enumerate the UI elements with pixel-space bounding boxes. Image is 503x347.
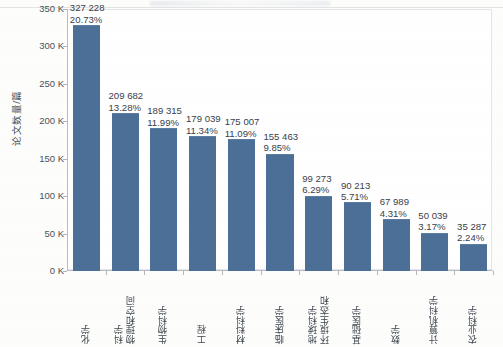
bar-data-label: 155 4639.85% [263,131,298,154]
bar-value-label: 189 315 [147,105,182,116]
x-axis-tick-mark [144,271,145,275]
bar[interactable] [150,128,177,271]
x-axis-tick-mark [493,271,494,275]
bar-slot: 99 2736.29% [305,9,332,271]
bar-percent-label: 11.99% [147,117,182,128]
x-axis-category-label: 材料科学 [236,274,247,344]
y-axis-tick-label: 150 K [24,153,64,164]
bar-value-label: 90 213 [341,180,370,191]
x-axis-category-label: 计算机科学 [429,274,440,344]
bar-data-label: 90 2135.71% [341,180,370,203]
bar-percent-label: 3.17% [418,221,447,232]
x-axis-category-label: 环境生态和地球科学 [308,274,330,344]
x-axis-tick-mark [377,271,378,275]
bar-value-label: 327 228 [70,2,105,13]
x-axis-category-line: 农业科学 [468,274,479,344]
bar-slot: 179 03911.34% [189,9,216,271]
y-axis-tick-labels: 0 K50 K100 K150 K200 K250 K300 K350 K [18,0,64,347]
bar-data-label: 327 22820.73% [70,2,105,25]
bar-data-label: 67 9894.31% [380,196,409,219]
x-axis-category-line: 数学 [391,274,402,344]
bar-data-label: 209 68213.28% [109,90,144,113]
bar[interactable] [383,219,410,271]
y-axis-tick-mark [63,121,67,122]
y-axis-tick-label: 200 K [24,115,64,126]
bar-percent-label: 11.09% [225,128,260,139]
x-axis-category-line: 环境生态和 [320,274,331,344]
bar-value-label: 50 039 [418,210,447,221]
y-axis-tick-mark [63,196,67,197]
x-axis-category-line: 工程 [197,274,208,344]
bar-slot: 155 4639.85% [266,9,293,271]
x-axis-category-line: 化学 [81,274,92,344]
bar[interactable] [73,25,100,271]
x-axis-tick-mark [416,271,417,275]
bar-chart: 论文数量/篇 0 K50 K100 K150 K200 K250 K300 K3… [0,0,503,347]
bar-slot: 209 68213.28% [112,9,139,271]
x-axis-tick-mark [299,271,300,275]
bar[interactable] [421,233,448,271]
bar-value-label: 209 682 [109,90,144,101]
bar-percent-label: 4.31% [380,208,409,219]
y-axis-tick-mark [63,46,67,47]
x-axis-category-line: 计算机科学 [429,274,440,344]
bars-layer: 327 22820.73%209 68213.28%189 31511.99%1… [67,9,493,271]
bar[interactable] [189,136,216,271]
y-axis-tick-label: 250 K [24,78,64,89]
bar[interactable] [228,139,255,271]
x-axis-tick-mark [338,271,339,275]
y-axis-tick-mark [63,159,67,160]
bar[interactable] [460,244,487,271]
y-axis-tick-mark [63,234,67,235]
bar-data-label: 50 0393.17% [418,210,447,233]
bar-value-label: 67 989 [380,196,409,207]
bar-slot: 189 31511.99% [150,9,177,271]
bar-slot: 35 2872.24% [460,9,487,271]
bar-percent-label: 6.29% [302,184,331,195]
x-axis-category-label: 物理和空间科学 [114,274,136,344]
x-axis-category-line: 生物科学 [158,274,169,344]
x-axis-category-label: 临床医学 [275,274,286,344]
x-axis-category-label: 生物科学 [158,274,169,344]
bar-slot: 90 2135.71% [344,9,371,271]
bar-slot: 67 9894.31% [383,9,410,271]
y-axis-tick-mark [63,271,67,272]
bar[interactable] [266,154,293,271]
x-axis-category-label: 基础医学 [352,274,363,344]
y-axis-tick-label: 300 K [24,40,64,51]
bar-data-label: 99 2736.29% [302,173,331,196]
y-axis-tick-label: 100 K [24,190,64,201]
x-axis-tick-mark [261,271,262,275]
bar-slot: 50 0393.17% [421,9,448,271]
bar-percent-label: 2.24% [457,232,486,243]
bar-value-label: 99 273 [302,173,331,184]
bar-data-label: 175 00711.09% [225,116,260,139]
bar-percent-label: 11.34% [186,125,221,136]
x-axis-category-label: 化学 [81,274,92,344]
x-axis-category-label: 数学 [391,274,402,344]
y-axis-tick-label: 50 K [24,228,64,239]
bar[interactable] [344,202,371,271]
bar-value-label: 155 463 [263,131,298,142]
bar-value-label: 35 287 [457,221,486,232]
bar[interactable] [305,196,332,271]
bar-value-label: 179 039 [186,113,221,124]
bar-percent-label: 9.85% [263,142,298,153]
x-axis-category-line: 科学 [114,274,125,344]
x-axis-category-label: 农业科学 [468,274,479,344]
bar-percent-label: 20.73% [70,14,105,25]
bar[interactable] [112,113,139,271]
bar-data-label: 179 03911.34% [186,113,221,136]
y-axis-tick-mark [63,9,67,10]
x-axis-category-line: 基础医学 [352,274,363,344]
x-axis-category-label: 工程 [197,274,208,344]
bar-value-label: 175 007 [225,116,260,127]
y-axis-tick-label: 0 K [24,265,64,276]
x-axis-category-line: 材料科学 [236,274,247,344]
x-axis-tick-mark [183,271,184,275]
y-axis-tick-mark [63,84,67,85]
x-axis-tick-mark [222,271,223,275]
y-axis-tick-label: 350 K [24,3,64,14]
bar-slot: 327 22820.73% [73,9,100,271]
x-axis-category-line: 地球科学 [308,274,319,344]
